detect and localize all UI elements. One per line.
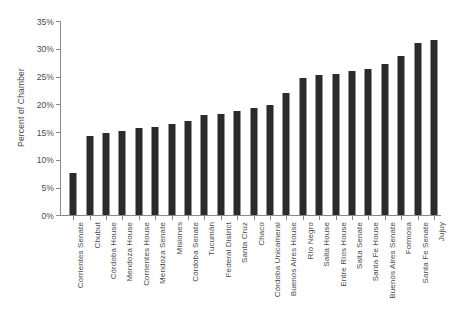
bar-slot	[131, 21, 147, 215]
x-axis-tick-mark	[286, 216, 287, 220]
bar-chart: Percent of Chamber 0%5%10%15%20%25%30%35…	[0, 0, 449, 320]
bar-slot	[377, 21, 393, 215]
bar-slot	[295, 21, 311, 215]
x-axis-tick-label: Santa Cruz	[240, 222, 249, 263]
x-axis-tick-label: Salta Senate	[355, 222, 364, 269]
x-axis-tick-mark	[139, 216, 140, 220]
bar	[283, 93, 290, 215]
x-axis-tick-label: Córdoba Unicameral	[273, 222, 282, 297]
x-axis-tick-label: Entre Ríos House	[339, 222, 348, 287]
y-axis-tick-label: 15%	[37, 128, 54, 138]
x-axis-tick-mark	[254, 216, 255, 220]
x-axis-tick-label: Buenos Aires House	[289, 222, 298, 296]
bar-slot	[426, 21, 442, 215]
bar-slot	[409, 21, 425, 215]
x-axis-tick-label: Corrientes House	[142, 222, 151, 286]
x-axis-tick-mark	[434, 216, 435, 220]
bar-slot	[180, 21, 196, 215]
y-axis-tick-mark	[56, 215, 60, 216]
x-axis-tick-mark	[90, 216, 91, 220]
x-axis-tick-mark	[418, 216, 419, 220]
bar	[135, 128, 142, 215]
x-axis-tick-label: Córdoba Senate	[191, 222, 200, 282]
bar-slot	[213, 21, 229, 215]
bar	[299, 78, 306, 215]
bar	[316, 75, 323, 215]
x-axis-tick-mark	[401, 216, 402, 220]
x-axis-tick-label: Mendoza House	[125, 222, 134, 282]
bar	[70, 173, 77, 215]
x-axis-tick-mark	[352, 216, 353, 220]
y-axis-tick-mark	[56, 132, 60, 133]
bar-slot	[114, 21, 130, 215]
bar	[414, 43, 421, 215]
x-axis-tick-mark	[237, 216, 238, 220]
bar	[184, 121, 191, 215]
x-axis-tick-label: Córdoba House	[109, 222, 118, 279]
x-axis-tick-mark	[319, 216, 320, 220]
bar-slot	[147, 21, 163, 215]
x-axis-tick-label: Misiones	[175, 222, 184, 254]
y-axis-tick: 30%	[37, 40, 60, 58]
x-axis-tick-mark	[122, 216, 123, 220]
y-axis-tick-label: 30%	[37, 44, 54, 54]
x-axis-tick-label: Mendoza Senate	[158, 222, 167, 284]
bar-slot	[311, 21, 327, 215]
y-axis-tick-label: 5%	[42, 183, 55, 193]
y-axis-tick-mark	[56, 160, 60, 161]
y-axis-tick-label: 20%	[37, 100, 54, 110]
bar	[86, 136, 93, 215]
x-axis-tick-mark	[172, 216, 173, 220]
x-axis-tick-label: Chubut	[93, 222, 102, 248]
x-axis-tick-mark	[73, 216, 74, 220]
bar-slot	[65, 21, 81, 215]
y-axis-tick-label: 35%	[37, 17, 54, 27]
y-axis-tick-mark	[56, 104, 60, 105]
bar-slot	[98, 21, 114, 215]
bar-slot	[262, 21, 278, 215]
y-axis-tick-mark	[56, 21, 60, 22]
bar	[152, 127, 159, 215]
y-axis-tick-label: 0%	[42, 211, 55, 221]
x-axis-tick-label: Corrientes Senate	[76, 222, 85, 288]
y-axis-tick-mark	[56, 77, 60, 78]
bar	[348, 71, 355, 215]
bar	[119, 131, 126, 215]
x-axis-tick-mark	[106, 216, 107, 220]
x-axis-tick-mark	[270, 216, 271, 220]
bar	[168, 124, 175, 215]
bar	[201, 115, 208, 215]
bar	[102, 133, 109, 215]
bar	[332, 74, 339, 215]
x-axis-tick-label: Buenos Aires Senate	[388, 222, 397, 299]
x-axis-tick-label: Santa Fe House	[371, 222, 380, 281]
x-axis-line	[60, 215, 441, 216]
x-axis-tick-label: Federal District	[224, 222, 233, 277]
x-axis-tick-mark	[204, 216, 205, 220]
y-axis-tick: 35%	[37, 12, 60, 30]
x-axis-tick-mark	[385, 216, 386, 220]
y-axis-tick-label: 25%	[37, 72, 54, 82]
bar	[217, 114, 224, 215]
bar-slot	[393, 21, 409, 215]
bar	[234, 111, 241, 215]
y-axis-label: Percent of Chamber	[14, 0, 28, 215]
bar-slot	[163, 21, 179, 215]
x-axis-tick-mark	[188, 216, 189, 220]
y-axis-tick: 20%	[37, 95, 60, 113]
x-axis-tick-label: Formosa	[404, 222, 413, 254]
x-axis-tick-label: Jujuy	[437, 222, 446, 241]
plot-area: 0%5%10%15%20%25%30%35%	[60, 21, 440, 215]
x-axis-tick-mark	[155, 216, 156, 220]
x-axis-tick-label: Santa Fe Senate	[421, 222, 430, 284]
bar	[381, 64, 388, 215]
bar	[430, 40, 437, 215]
bar	[266, 105, 273, 215]
bar-slot	[344, 21, 360, 215]
y-axis-tick: 10%	[37, 151, 60, 169]
y-axis-tick-mark	[56, 188, 60, 189]
x-axis-tick-mark	[336, 216, 337, 220]
bar	[365, 69, 372, 215]
x-axis-tick-mark	[303, 216, 304, 220]
x-axis-tick-label: Chaco	[257, 222, 266, 246]
